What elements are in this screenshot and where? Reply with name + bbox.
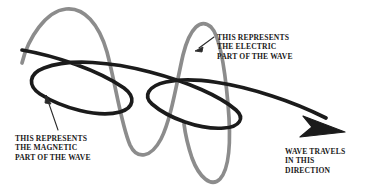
magnetic-label-line2-emphasis: MAGNETIC [34, 143, 78, 152]
electric-leader-arrow-icon [195, 37, 214, 52]
direction-label-line1: WAVE TRAVELS [285, 147, 345, 156]
direction-label: WAVE TRAVELS IN THIS DIRECTION [285, 147, 345, 175]
magnetic-label-line2-prefix: THE [15, 143, 34, 152]
electromagnetic-wave-figure: THIS REPRESENTS THE ELECTRIC PART OF THE… [0, 0, 367, 190]
direction-label-line2: IN THIS [285, 156, 345, 165]
electric-label-line2-prefix: THE [217, 42, 236, 51]
electric-label-line3: PART OF THE WAVE [217, 52, 293, 61]
electric-label-line1: THIS REPRESENTS [217, 33, 293, 42]
electric-label-line2: THE ELECTRIC [217, 42, 293, 51]
magnetic-label-line3: PART OF THE WAVE [15, 153, 91, 162]
direction-label-line3: DIRECTION [285, 166, 345, 175]
magnetic-label-line2: THE MAGNETIC [15, 143, 91, 152]
electric-label-line2-emphasis: ELECTRIC [236, 42, 277, 51]
magnetic-label-line1: THIS REPRESENTS [15, 134, 91, 143]
electric-label: THIS REPRESENTS THE ELECTRIC PART OF THE… [217, 33, 293, 61]
magnetic-label: THIS REPRESENTS THE MAGNETIC PART OF THE… [15, 134, 91, 162]
arrowhead-icon [300, 116, 345, 137]
